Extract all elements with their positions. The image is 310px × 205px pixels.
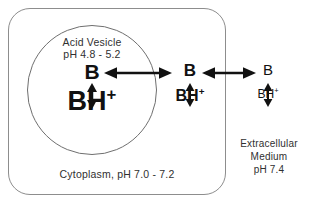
diagram-canvas: Acid Vesicle pH 4.8 - 5.2 Cytoplasm, pH … <box>0 0 310 205</box>
acid-species-vesicle-charge: + <box>107 85 117 104</box>
extracellular-line-1: Extracellular <box>231 137 307 150</box>
double-arrow-extracellular-equilibrium-icon <box>261 83 275 107</box>
extracellular-line-2: Medium <box>231 150 307 163</box>
double-arrow-vesicle-cytoplasm-icon <box>104 64 172 82</box>
double-arrow-cytoplasm-extracellular-icon <box>202 64 256 82</box>
acid-vesicle-label: Acid Vesicle pH 4.8 - 5.2 <box>27 36 157 61</box>
double-arrow-vesicle-equilibrium-icon <box>84 83 100 109</box>
acid-vesicle-name: Acid Vesicle <box>62 36 121 48</box>
double-arrow-cytoplasm-equilibrium-icon <box>183 83 197 107</box>
acid-species-cytoplasm-charge: + <box>199 86 205 97</box>
extracellular-ph: pH 7.4 <box>231 163 307 176</box>
cytoplasm-label: Cytoplasm, pH 7.0 - 7.2 <box>8 168 226 180</box>
acid-vesicle-ph: pH 4.8 - 5.2 <box>27 48 157 60</box>
extracellular-medium-label: Extracellular Medium pH 7.4 <box>231 137 307 177</box>
